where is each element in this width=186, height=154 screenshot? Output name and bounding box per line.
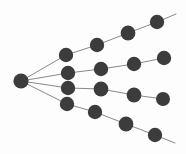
branch2-node3[interactable] [127, 57, 141, 71]
branch4-node1[interactable] [60, 97, 74, 111]
branch4-node4[interactable] [148, 128, 162, 142]
graph-svg [0, 0, 186, 154]
branch1-node3[interactable] [121, 26, 136, 41]
branch1-node1[interactable] [59, 48, 73, 62]
branch2-node4[interactable] [157, 51, 171, 65]
branch4-node2[interactable] [88, 105, 102, 119]
root-node[interactable] [13, 73, 28, 88]
tree-diagram-canvas [0, 0, 186, 154]
branch2-node1[interactable] [61, 66, 75, 80]
branch2-node2[interactable] [94, 62, 108, 76]
branch3-node1[interactable] [61, 81, 75, 95]
branch3-node2[interactable] [94, 82, 109, 97]
branch1-node4[interactable] [150, 15, 164, 29]
branch3-node3[interactable] [127, 88, 142, 103]
branch3-node4[interactable] [156, 92, 170, 106]
branch4-node3[interactable] [119, 117, 134, 132]
edge-layer [21, 14, 176, 143]
branch1-node2[interactable] [90, 38, 104, 52]
